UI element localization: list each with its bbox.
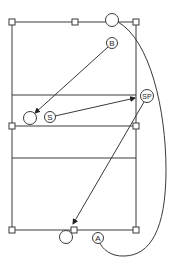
cone-marker [9, 19, 15, 25]
player-b: B [107, 38, 118, 49]
arrow-s-to-sp [55, 98, 135, 116]
cone-marker [133, 123, 139, 129]
cone-marker [71, 227, 77, 233]
drill-diagram: B S SP A [0, 0, 174, 268]
player-s: S [45, 112, 56, 123]
cone-marker [9, 227, 15, 233]
player-b-label: B [109, 39, 114, 48]
target-top-circle [106, 14, 119, 27]
player-sp: SP [141, 90, 154, 103]
player-a: A [93, 233, 104, 244]
target-bottom-circle [60, 231, 73, 244]
player-s-label: S [47, 113, 52, 122]
court [12, 22, 136, 230]
cone-marker [133, 227, 139, 233]
player-sp-label: SP [142, 93, 152, 100]
arrow-b-to-target [35, 47, 108, 113]
player-a-label: A [95, 234, 101, 243]
movement-curve [100, 22, 166, 256]
cone-marker [72, 19, 78, 25]
target-left-circle [24, 112, 37, 125]
arrow-sp-to-bottom [73, 102, 144, 224]
cone-marker [9, 123, 15, 129]
cone-marker [133, 19, 139, 25]
